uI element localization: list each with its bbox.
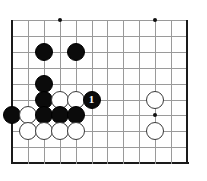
grid-line-horizontal	[12, 68, 188, 69]
grid-line-horizontal	[12, 20, 188, 21]
grid-line-vertical	[186, 20, 188, 164]
star-point	[58, 18, 62, 22]
stone-black[interactable]	[35, 43, 53, 61]
grid-line-horizontal	[12, 36, 188, 37]
grid-line-vertical	[11, 20, 13, 164]
go-diagram: 1	[0, 0, 207, 181]
grid-line-vertical	[107, 20, 108, 164]
star-point	[153, 113, 157, 117]
grid-line-vertical	[139, 20, 140, 164]
grid-line-horizontal	[12, 147, 188, 148]
grid-line-vertical	[28, 20, 29, 164]
stone-black[interactable]	[67, 43, 85, 61]
stone-black-numbered[interactable]: 1	[83, 91, 101, 109]
go-board[interactable]: 1	[0, 0, 207, 181]
star-point	[153, 18, 157, 22]
stone-white[interactable]	[146, 91, 164, 109]
grid-line-vertical	[123, 20, 124, 164]
stone-move-number: 1	[84, 92, 100, 108]
stone-black[interactable]	[35, 75, 53, 93]
grid-line-vertical	[171, 20, 172, 164]
stone-white[interactable]	[146, 122, 164, 140]
stone-white[interactable]	[67, 122, 85, 140]
grid-line-horizontal	[12, 162, 189, 164]
stone-white[interactable]	[51, 122, 69, 140]
